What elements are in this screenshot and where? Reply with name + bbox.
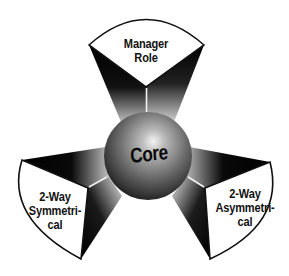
- arm-left-line-2: Symmetri-: [20, 204, 90, 218]
- arm-right-line-2: Asymmetri-: [208, 201, 281, 215]
- arm-left-line-3: cal: [20, 218, 90, 232]
- core-propeller-diagram: Manager Role 2-Way Symmetri- cal 2-Way A…: [0, 0, 289, 276]
- arm-right-line-1: 2-Way: [208, 187, 281, 201]
- arm-label-right: 2-Way Asymmetri- cal: [208, 187, 281, 229]
- arm-right-line-3: cal: [208, 215, 281, 229]
- arm-top-line-1: Manager: [112, 37, 180, 51]
- arm-label-top: Manager Role: [112, 37, 180, 65]
- core-label: Core: [125, 140, 172, 169]
- arm-left-line-1: 2-Way: [20, 190, 90, 204]
- arm-label-left: 2-Way Symmetri- cal: [20, 190, 90, 232]
- arm-top-line-2: Role: [112, 51, 180, 65]
